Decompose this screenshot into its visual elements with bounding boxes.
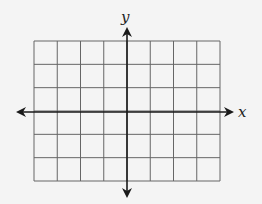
y-axis-label: y (120, 8, 130, 26)
coordinate-plane: y x (0, 0, 262, 204)
x-axis-label: x (238, 103, 247, 121)
